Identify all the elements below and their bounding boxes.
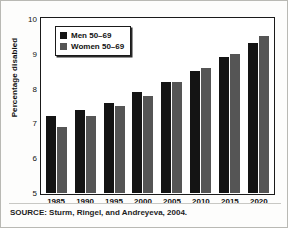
chart-plot-wrapper: Percentage disabled 1098765 198519901995… (1, 1, 288, 201)
bar-men-1985 (46, 116, 56, 193)
chart-legend: Men 50–69 Women 50–69 (55, 26, 131, 56)
x-tick-label-1995: 1995 (100, 197, 129, 206)
legend-item-women: Women 50–69 (60, 41, 124, 52)
bar-group-2010 (186, 19, 215, 194)
x-tick-label-1985: 1985 (42, 197, 71, 206)
bar-women-1995 (115, 106, 125, 193)
x-tick-label-2015: 2015 (215, 197, 244, 206)
bar-women-2015 (230, 54, 240, 194)
bar-men-1995 (104, 103, 114, 194)
y-tick-label-10: 10 (17, 14, 37, 23)
legend-label-women: Women 50–69 (71, 42, 124, 51)
x-axis-labels: 19851990199520002005201020152020 (42, 197, 274, 206)
y-tick-label-5: 5 (17, 189, 37, 198)
bar-group-2020 (244, 19, 273, 194)
bar-group-2005 (157, 19, 186, 194)
y-tick-label-6: 6 (17, 154, 37, 163)
bar-men-2015 (219, 57, 229, 193)
y-tick-label-7: 7 (17, 119, 37, 128)
source-note: SOURCE: Sturm, Ringel, and Andreyeva, 20… (10, 208, 187, 217)
bar-men-1990 (75, 110, 85, 194)
bar-men-2020 (248, 43, 258, 193)
bar-women-2000 (143, 96, 153, 194)
bar-group-2000 (129, 19, 158, 194)
y-tick-label-8: 8 (17, 84, 37, 93)
y-tick-label-9: 9 (17, 49, 37, 58)
bar-men-2000 (132, 92, 142, 193)
x-tick-label-2020: 2020 (244, 197, 273, 206)
bar-women-1990 (86, 116, 96, 193)
bar-women-2005 (172, 82, 182, 194)
legend-item-men: Men 50–69 (60, 30, 124, 41)
x-tick-label-2005: 2005 (157, 197, 186, 206)
women-swatch-icon (60, 43, 67, 50)
bar-women-1985 (57, 127, 67, 193)
source-divider (9, 203, 281, 204)
x-tick-label-2000: 2000 (129, 197, 158, 206)
bar-women-2010 (201, 68, 211, 194)
legend-label-men: Men 50–69 (71, 31, 111, 40)
x-tick-label-1990: 1990 (71, 197, 100, 206)
figure-container: Percentage disabled 1098765 198519901995… (0, 0, 288, 228)
bar-group-2015 (215, 19, 244, 194)
x-tick-label-2010: 2010 (186, 197, 215, 206)
bar-men-2010 (190, 71, 200, 193)
men-swatch-icon (60, 32, 67, 39)
bar-men-2005 (161, 82, 171, 194)
bar-women-2020 (259, 36, 269, 193)
